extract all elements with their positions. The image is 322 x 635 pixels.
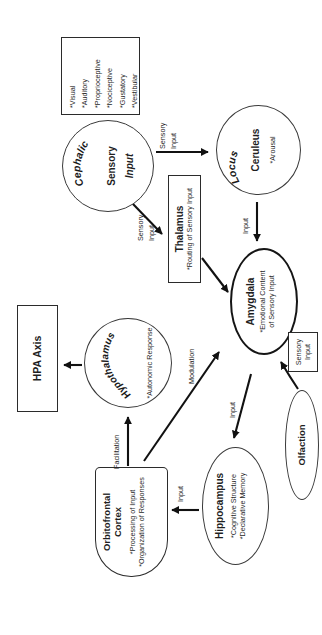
hypothalamus-arched-title: Hypothalamus xyxy=(99,330,132,401)
arrow-olfaction-to-amygdala xyxy=(281,362,298,389)
arrows-overlay: Cephalic Locus Hypothalamus xyxy=(0,0,322,635)
cephalic-arched-title: Cephalic xyxy=(70,138,90,188)
rotated-diagram-stage: *Visual *Auditory *Proprioceptive *Nocic… xyxy=(0,0,322,635)
arrow-ofc-to-amygdala-modulation xyxy=(144,352,219,461)
scanned-diagram-page: *Visual *Auditory *Proprioceptive *Nocic… xyxy=(0,0,322,635)
arrow-thalamus-to-amygdala xyxy=(202,258,228,292)
locus-arched-title: Locus xyxy=(225,149,242,187)
arrow-amygdala-to-hippocampus xyxy=(234,374,251,438)
arrow-cephalic-to-thalamus xyxy=(133,204,162,234)
